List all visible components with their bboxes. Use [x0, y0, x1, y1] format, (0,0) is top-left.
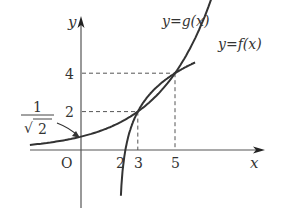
radical-sign: √	[24, 120, 33, 136]
x-axis-label: x	[250, 154, 259, 172]
y-axis-label: y	[67, 13, 77, 31]
origin-label: O	[61, 155, 72, 171]
intercept-label: 1 √ 2	[21, 99, 54, 137]
intercept-denominator: 2	[38, 121, 47, 137]
intercept-numerator: 1	[33, 99, 42, 115]
y-tick-4: 4	[65, 66, 74, 82]
x-tick-2: 2	[116, 155, 125, 171]
curve-f-label: y=f(x)	[217, 36, 262, 52]
x-tick-5: 5	[171, 155, 180, 171]
y-tick-2: 2	[65, 104, 74, 120]
x-tick-3: 3	[134, 155, 143, 171]
curve-g-label: y=g(x)	[161, 13, 209, 29]
function-graph: y x O 2 3 5 2 4 1 √ 2 y=g(x) y=f(x)	[0, 0, 293, 215]
curve-g	[121, 63, 195, 196]
